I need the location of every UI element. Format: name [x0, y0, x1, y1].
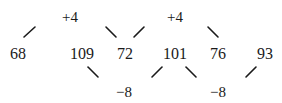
- sequence-term-5: 76: [210, 46, 226, 62]
- connector-109-to-minus8: [88, 67, 98, 77]
- connector-minus8-to-93: [246, 67, 256, 77]
- connector-68-to-top-plus4: [24, 27, 35, 37]
- connector-72-to-top-plus4: [134, 27, 144, 37]
- number-pattern-diagram: +4 +4 68 109 72 101 76 93 −8 −8: [0, 0, 282, 103]
- connector-minus8-to-101: [152, 67, 162, 77]
- difference-minus-8-second: −8: [210, 84, 226, 100]
- difference-plus-4-second: +4: [167, 9, 183, 25]
- difference-plus-4-first: +4: [62, 9, 78, 25]
- sequence-term-2: 109: [70, 46, 94, 62]
- connector-lines: [0, 0, 282, 103]
- sequence-term-1: 68: [10, 46, 26, 62]
- connector-top-plus4-to-76: [208, 27, 218, 37]
- connector-101-to-minus8: [186, 67, 196, 77]
- sequence-term-6: 93: [257, 46, 273, 62]
- sequence-term-3: 72: [117, 46, 133, 62]
- connector-top-plus4-to-72: [106, 27, 116, 37]
- difference-minus-8-first: −8: [116, 84, 132, 100]
- sequence-term-4: 101: [163, 46, 187, 62]
